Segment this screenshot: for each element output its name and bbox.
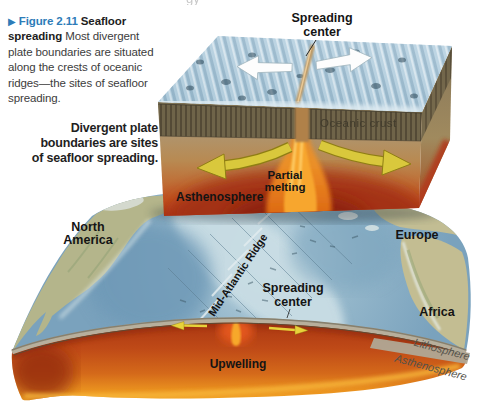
- label-north-america: North: [71, 220, 104, 234]
- label-block-spreading-center-2: center: [303, 25, 341, 39]
- label-asthenosphere-block: Asthenosphere: [176, 190, 264, 204]
- label-europe: Europe: [395, 228, 438, 242]
- label-globe-spreading-center: Spreading: [262, 281, 323, 295]
- label-partial-melting-2: melting: [265, 181, 306, 193]
- label-globe-spreading-center-2: center: [274, 295, 312, 309]
- label-oceanic-crust: Oceanic crust: [320, 117, 397, 129]
- figure-page: gy ▶ Figure 2.11 Seafloor spreading Most…: [0, 0, 483, 415]
- label-block-spreading-center: Spreading: [291, 11, 352, 25]
- figure-illustration: North America Europe Africa Mid-Atlantic…: [0, 0, 483, 415]
- label-north-america-2: America: [63, 233, 113, 247]
- label-partial-melting: Partial: [267, 169, 302, 181]
- label-africa: Africa: [419, 305, 455, 319]
- shelf-patch: [365, 225, 379, 231]
- mantle-left-shading: [10, 344, 74, 400]
- label-upwelling: Upwelling: [210, 357, 267, 371]
- magma-conduit: [295, 104, 309, 142]
